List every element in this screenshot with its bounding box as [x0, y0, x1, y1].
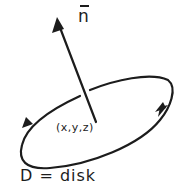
boundary-arrowhead-left-icon — [22, 117, 33, 128]
caption: D = disk — [20, 166, 96, 185]
diagram-drawing — [0, 0, 177, 189]
normal-vector-shaft — [59, 25, 96, 122]
disk-normal-diagram: n (x,y,z) D = disk — [0, 0, 177, 189]
point-label: (x,y,z) — [56, 121, 94, 134]
normal-vector-label: n — [78, 6, 89, 26]
